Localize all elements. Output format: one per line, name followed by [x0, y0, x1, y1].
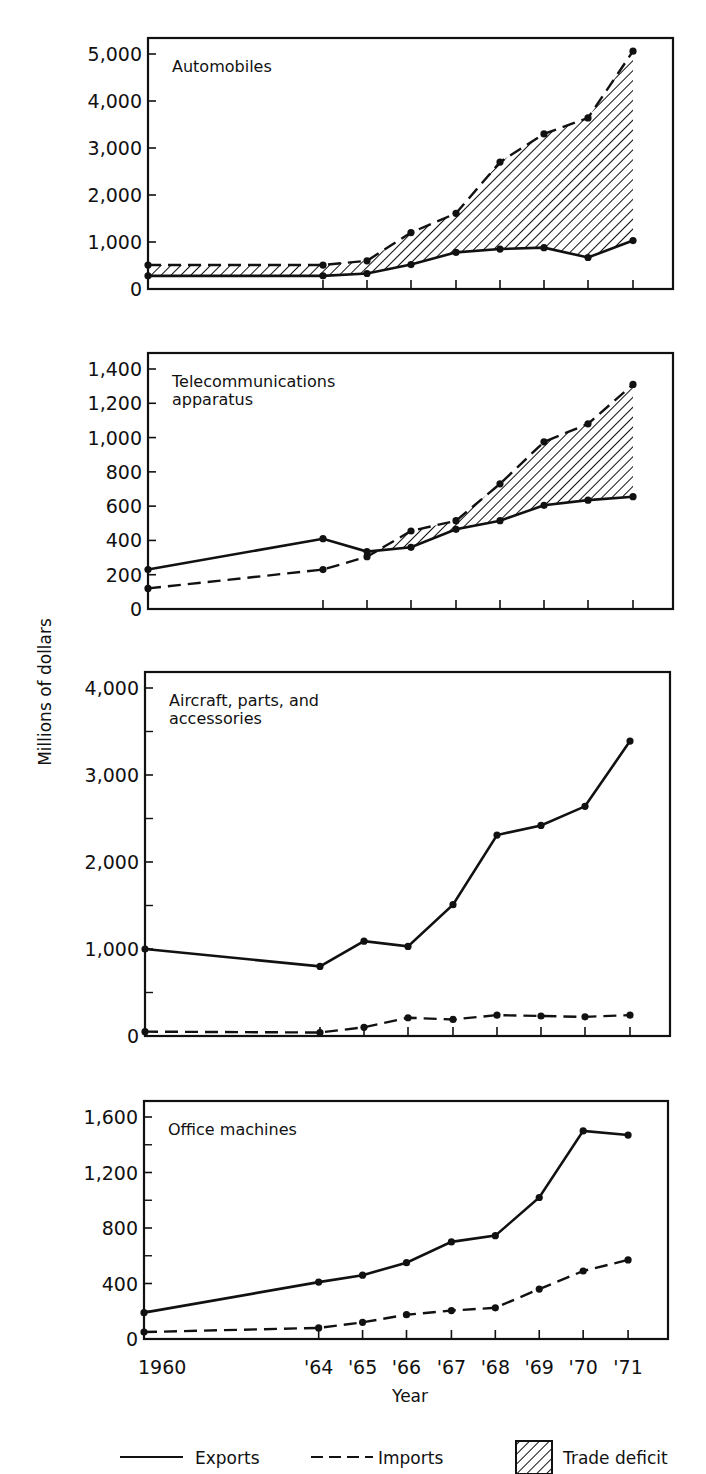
- imports-point: [536, 1285, 543, 1292]
- exports-point: [315, 1279, 322, 1286]
- imports-point: [319, 261, 326, 268]
- exports-point: [360, 938, 367, 945]
- exports-line: [148, 497, 633, 570]
- y-tick-label: 2,000: [88, 184, 142, 206]
- panel-telecommunications: 02004006008001,0001,2001,400Telecommunic…: [88, 353, 673, 620]
- x-tick-label: '68: [481, 1356, 510, 1378]
- imports-point: [140, 1328, 147, 1335]
- y-tick-label: 3,000: [85, 764, 139, 786]
- imports-point: [581, 1013, 588, 1020]
- y-tick-label: 0: [127, 1025, 139, 1047]
- imports-point: [144, 585, 151, 592]
- panel-title: Automobiles: [172, 57, 272, 76]
- x-tick-label: '67: [437, 1356, 466, 1378]
- exports-point: [452, 526, 459, 533]
- imports-point: [316, 1029, 323, 1036]
- x-tick-label: '71: [613, 1356, 642, 1378]
- imports-point: [363, 257, 370, 264]
- imports-point: [449, 1016, 456, 1023]
- legend-deficit-label: Trade deficit: [562, 1448, 668, 1468]
- x-tick-label: 1960: [138, 1356, 186, 1378]
- exports-point: [584, 254, 591, 261]
- imports-point: [580, 1267, 587, 1274]
- imports-point: [319, 566, 326, 573]
- exports-line: [145, 741, 630, 966]
- y-tick-label: 1,200: [88, 392, 142, 414]
- exports-point: [581, 803, 588, 810]
- panel-title: Office machines: [168, 1120, 297, 1139]
- trade-deficit-area: [148, 51, 633, 276]
- exports-point: [403, 1259, 410, 1266]
- exports-point: [540, 502, 547, 509]
- exports-point: [449, 901, 456, 908]
- imports-point: [493, 1012, 500, 1019]
- exports-point: [144, 566, 151, 573]
- panel-title: Telecommunications: [171, 372, 335, 391]
- exports-point: [496, 517, 503, 524]
- imports-point: [448, 1307, 455, 1314]
- imports-point: [452, 210, 459, 217]
- y-tick-label: 0: [126, 1328, 138, 1350]
- legend-exports-label: Exports: [195, 1448, 260, 1468]
- imports-point: [404, 1014, 411, 1021]
- imports-point: [584, 420, 591, 427]
- exports-point: [493, 831, 500, 838]
- exports-point: [496, 245, 503, 252]
- exports-point: [404, 943, 411, 950]
- panel-automobiles: 01,0002,0003,0004,0005,000Automobiles: [88, 38, 673, 300]
- legend: Exports Imports Trade deficit: [120, 1441, 668, 1474]
- exports-point: [319, 535, 326, 542]
- y-tick-label: 1,200: [84, 1162, 138, 1184]
- exports-point: [363, 270, 370, 277]
- imports-point: [537, 1012, 544, 1019]
- imports-point: [363, 553, 370, 560]
- x-tick-label: '64: [304, 1356, 333, 1378]
- y-tick-label: 1,600: [84, 1106, 138, 1128]
- panel-office-machines: 04008001,2001,600Office machines: [84, 1101, 668, 1350]
- exports-point: [540, 244, 547, 251]
- imports-point: [452, 517, 459, 524]
- exports-point: [537, 822, 544, 829]
- y-tick-label: 800: [106, 461, 142, 483]
- exports-point: [316, 963, 323, 970]
- imports-point: [540, 130, 547, 137]
- y-tick-label: 0: [130, 278, 142, 300]
- y-tick-label: 1,000: [85, 938, 139, 960]
- x-tick-label: '65: [348, 1356, 377, 1378]
- imports-point: [629, 48, 636, 55]
- exports-point: [584, 497, 591, 504]
- exports-point: [629, 237, 636, 244]
- imports-point: [144, 261, 151, 268]
- panel-aircraft: 01,0002,0003,0004,000Aircraft, parts, an…: [85, 672, 670, 1047]
- imports-point: [141, 1028, 148, 1035]
- exports-point: [452, 249, 459, 256]
- y-tick-label: 800: [102, 1217, 138, 1239]
- imports-point: [626, 1012, 633, 1019]
- imports-point: [624, 1256, 631, 1263]
- imports-line: [145, 1015, 630, 1032]
- legend-deficit-swatch: [516, 1441, 552, 1474]
- imports-point: [496, 480, 503, 487]
- y-tick-label: 2,000: [85, 851, 139, 873]
- exports-point: [536, 1194, 543, 1201]
- y-tick-label: 5,000: [88, 43, 142, 65]
- exports-point: [629, 493, 636, 500]
- y-tick-label: 0: [130, 598, 142, 620]
- imports-point: [360, 1024, 367, 1031]
- exports-line: [144, 1131, 628, 1313]
- imports-point: [407, 229, 414, 236]
- imports-point: [359, 1319, 366, 1326]
- exports-point: [144, 272, 151, 279]
- x-axis-title: Year: [391, 1386, 428, 1406]
- trade-deficit-area: [378, 384, 633, 550]
- x-tick-label: '66: [392, 1356, 421, 1378]
- y-tick-label: 400: [102, 1273, 138, 1295]
- exports-point: [624, 1131, 631, 1138]
- exports-point: [626, 737, 633, 744]
- y-axis-title: Millions of dollars: [35, 618, 55, 766]
- x-tick-labels: 1960'64'65'66'67'68'69'70'71: [138, 1356, 643, 1378]
- imports-point: [496, 159, 503, 166]
- imports-point: [629, 381, 636, 388]
- y-tick-label: 600: [106, 495, 142, 517]
- imports-point: [540, 438, 547, 445]
